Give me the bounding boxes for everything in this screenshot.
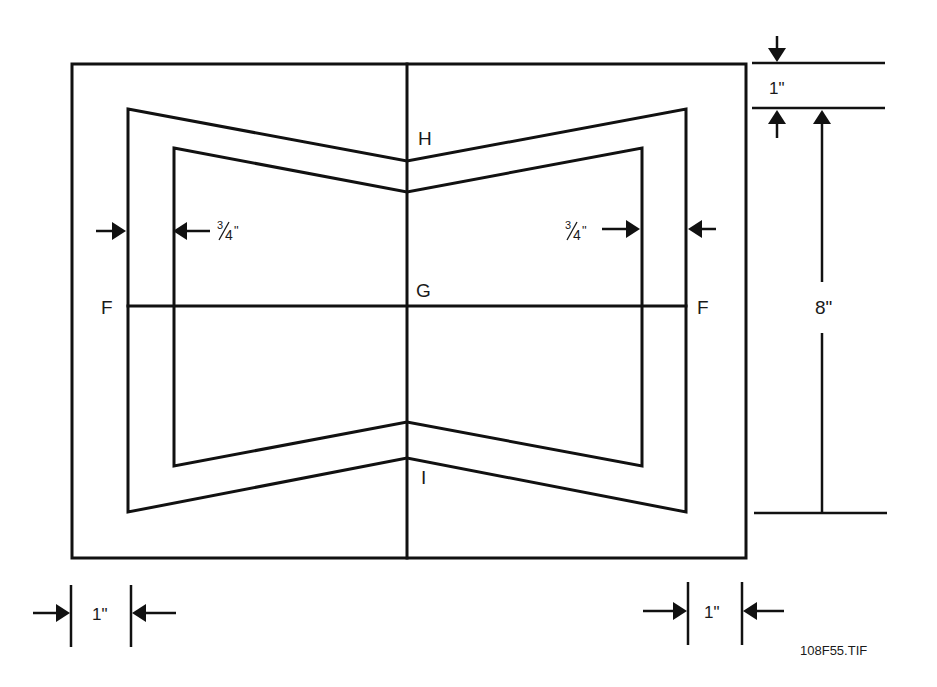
label-f-left: F — [101, 297, 113, 318]
label-h: H — [418, 128, 432, 149]
arrow-up-icon — [768, 110, 786, 124]
arrow-down-icon — [768, 48, 786, 62]
dimension-label-1in-left: 1" — [92, 605, 108, 624]
fraction-denominator: 4 — [573, 227, 581, 243]
arrow-up-icon — [813, 110, 831, 124]
dimension-label-1in-top: 1" — [769, 79, 785, 98]
dimension-label-8in: 8" — [815, 297, 832, 318]
fraction-numerator: 3 — [217, 219, 223, 231]
arrow-right-icon — [56, 604, 70, 622]
label-g: G — [416, 280, 431, 301]
arrow-left-icon — [132, 604, 146, 622]
arrow-left-icon — [688, 220, 702, 238]
dimension-bottom-left: 1" — [33, 585, 176, 647]
arrow-right-icon — [673, 602, 687, 620]
arrow-right-icon — [626, 220, 640, 238]
fraction-denominator: 4 — [225, 227, 233, 243]
inch-mark: " — [582, 223, 587, 238]
dimension-label-1in-right: 1" — [704, 603, 720, 622]
inch-mark: " — [234, 223, 239, 238]
label-i: I — [421, 467, 426, 488]
label-f-right: F — [697, 297, 709, 318]
fraction-numerator: 3 — [565, 219, 571, 231]
figure-id-label: 108F55.TIF — [800, 643, 867, 658]
dimension-height: 8" — [754, 110, 887, 513]
arrow-right-icon — [112, 222, 126, 240]
pattern-diagram: H G I F F 3 4 " 3 4 " 1" 8" — [0, 0, 937, 687]
arrow-left-icon — [743, 602, 757, 620]
dimension-bottom-right: 1" — [643, 582, 784, 645]
dimension-inset-left: 3 4 " — [96, 219, 239, 243]
